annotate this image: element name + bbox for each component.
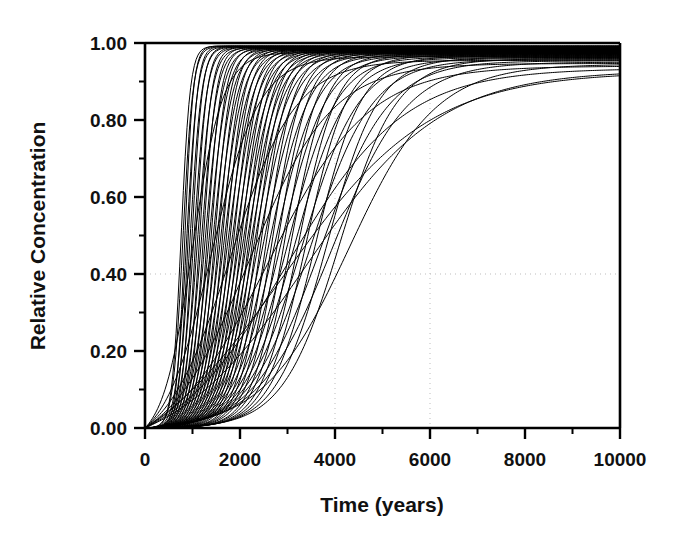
y-axis-title: Relative Concentration [26, 122, 49, 351]
y-axis-tick-label: 0.00 [90, 418, 127, 439]
breakthrough-curve-chart: 0200040006000800010000 0.000.200.400.600… [0, 0, 676, 535]
y-axis-tick-label: 1.00 [90, 33, 127, 54]
chart-figure: 0200040006000800010000 0.000.200.400.600… [0, 0, 676, 535]
y-axis-tick-label: 0.40 [90, 264, 127, 285]
x-axis-tick-label: 4000 [314, 449, 356, 470]
x-axis-tick-label: 2000 [219, 449, 261, 470]
x-axis-tick-label: 6000 [409, 449, 451, 470]
y-axis-tick-label: 0.20 [90, 341, 127, 362]
x-axis-tick-label: 0 [140, 449, 151, 470]
x-axis-title: Time (years) [320, 493, 443, 516]
y-axis-tick-label: 0.60 [90, 187, 127, 208]
x-axis-tick-label: 10000 [594, 449, 647, 470]
y-axis-tick-label: 0.80 [90, 110, 127, 131]
x-axis-tick-label: 8000 [504, 449, 546, 470]
